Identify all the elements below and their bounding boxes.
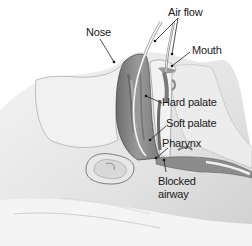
label-soft-palate: Soft palate bbox=[166, 117, 216, 129]
label-pharynx: Pharynx bbox=[162, 137, 201, 149]
label-blocked-airway-line1: Blocked bbox=[158, 175, 196, 187]
label-air-flow: Air flow bbox=[168, 6, 202, 18]
ear bbox=[86, 154, 134, 184]
label-hard-palate: Hard palate bbox=[162, 96, 217, 108]
label-nose: Nose bbox=[86, 26, 111, 38]
label-blocked-airway-line2: airway bbox=[158, 188, 189, 200]
sleep-apnea-diagram: Nose Air flow Mouth Hard palate Soft pal… bbox=[0, 0, 252, 246]
label-mouth: Mouth bbox=[192, 44, 222, 56]
